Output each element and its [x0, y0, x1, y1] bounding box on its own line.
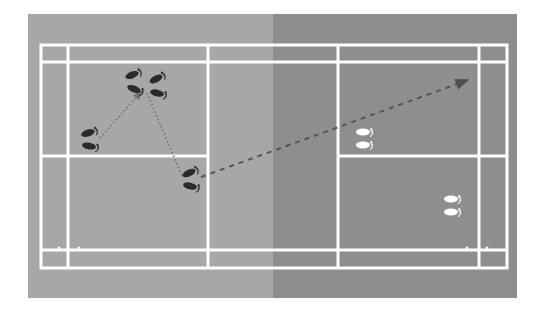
badminton-court-diagram	[0, 0, 543, 317]
